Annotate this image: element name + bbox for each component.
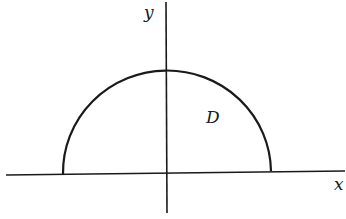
x-axis-label: x — [334, 174, 344, 194]
x-axis — [6, 171, 345, 175]
y-axis — [166, 2, 167, 213]
diagram-canvas: y D x — [0, 0, 346, 219]
region-label: D — [205, 107, 220, 127]
y-axis-label: y — [143, 2, 154, 22]
